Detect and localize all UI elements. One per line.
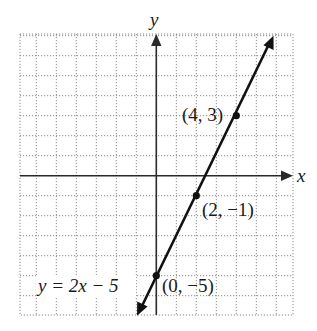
label-point-0-neg5: (0, −5) [162,275,214,297]
coordinate-plane: x y (4, 3) (2, −1) (0, −5) y = 2x − 5 [0,0,317,331]
label-point-4-3: (4, 3) [182,104,223,126]
point-4-3 [233,112,240,119]
point-2-neg1 [193,192,200,199]
y-axis-label: y [148,9,159,30]
point-0-neg5 [153,272,160,279]
equation-label: y = 2x − 5 [36,275,119,296]
x-axis-label: x [296,165,306,186]
x-axis-arrow-icon [281,171,293,181]
label-point-2-neg1: (2, −1) [202,199,254,221]
